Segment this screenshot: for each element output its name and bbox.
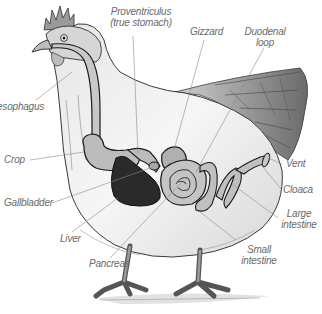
label-proventriculus: Proventriculus (true stomach) bbox=[106, 6, 176, 28]
label-small-intestine-line2: intestine bbox=[236, 255, 282, 266]
label-cloaca: Cloaca bbox=[283, 184, 313, 195]
label-large-intestine-line1: Large bbox=[276, 208, 322, 219]
label-duodenal-line2: loop bbox=[240, 37, 290, 48]
ground bbox=[95, 293, 270, 304]
label-large-intestine-line2: intestine bbox=[276, 219, 322, 230]
label-vent: Vent bbox=[286, 158, 305, 169]
label-proventriculus-line2: (true stomach) bbox=[106, 17, 176, 28]
label-liver: Liver bbox=[60, 233, 81, 244]
label-large-intestine: Large intestine bbox=[276, 208, 322, 230]
duodenal-loop-organ bbox=[161, 160, 207, 205]
label-small-intestine: Small intestine bbox=[236, 244, 282, 266]
label-pancreas: Pancreas bbox=[89, 258, 130, 269]
label-small-intestine-line1: Small bbox=[236, 244, 282, 255]
label-esophagus: esophagus bbox=[0, 101, 44, 112]
label-proventriculus-line1: Proventriculus bbox=[106, 6, 176, 17]
label-duodenal-line1: Duodenal bbox=[240, 26, 290, 37]
gallbladder-organ bbox=[149, 162, 159, 170]
chicken-digestive-diagram: Proventriculus (true stomach) Gizzard Du… bbox=[0, 0, 322, 314]
label-crop: Crop bbox=[4, 154, 25, 165]
label-gizzard: Gizzard bbox=[190, 26, 223, 37]
label-duodenal-loop: Duodenal loop bbox=[240, 26, 290, 48]
label-gallbladder: Gallbladder bbox=[4, 197, 53, 208]
